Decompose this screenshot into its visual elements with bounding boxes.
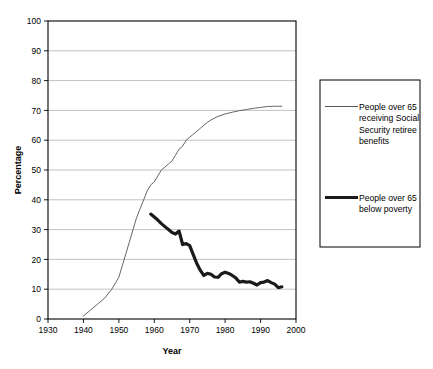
x-tick-label-1940: 1940	[74, 325, 93, 335]
x-tick-label-2000: 2000	[287, 325, 306, 335]
legend-label-line-2: receiving Social	[359, 113, 419, 123]
legend-label-line-1: People over 65	[359, 102, 417, 112]
y-axis-tick-labels: 100 90 80 70 60 50 40 30 20 10 0	[27, 16, 41, 324]
legend-label-line-3: Security retiree	[359, 125, 417, 135]
y-tick-label-0: 0	[36, 314, 41, 324]
x-tick-label-1930: 1930	[39, 325, 58, 335]
legend-label-poverty-line-1: People over 65	[359, 193, 417, 203]
y-tick-label-70: 70	[32, 106, 42, 116]
x-tick-label-1980: 1980	[216, 325, 235, 335]
y-axis-ticks	[44, 21, 48, 319]
y-tick-label-60: 60	[32, 135, 42, 145]
y-tick-label-30: 30	[32, 225, 42, 235]
x-tick-label-1970: 1970	[180, 325, 199, 335]
y-tick-label-90: 90	[32, 46, 42, 56]
y-tick-label-80: 80	[32, 76, 42, 86]
y-tick-label-50: 50	[32, 165, 42, 175]
y-tick-label-100: 100	[27, 16, 41, 26]
x-tick-label-1950: 1950	[109, 325, 128, 335]
x-tick-label-1960: 1960	[145, 325, 164, 335]
legend-label-poverty-line-2: below poverty	[359, 204, 413, 214]
y-tick-label-40: 40	[32, 195, 42, 205]
chart-svg: 100 90 80 70 60 50 40 30 20 10 0 1930 19	[0, 0, 433, 369]
x-axis-title: Year	[162, 346, 182, 356]
y-axis-title: Percentage	[13, 146, 23, 195]
x-axis-ticks	[48, 319, 296, 323]
x-axis-tick-labels: 1930 1940 1950 1960 1970 1980 1990 2000	[39, 325, 306, 335]
y-tick-label-10: 10	[32, 284, 42, 294]
chart-figure: 100 90 80 70 60 50 40 30 20 10 0 1930 19	[0, 0, 433, 369]
legend-label-line-4: benefits	[359, 136, 389, 146]
x-tick-label-1990: 1990	[251, 325, 270, 335]
y-tick-label-20: 20	[32, 255, 42, 265]
legend-entry-poverty: People over 65 below poverty	[359, 193, 417, 215]
